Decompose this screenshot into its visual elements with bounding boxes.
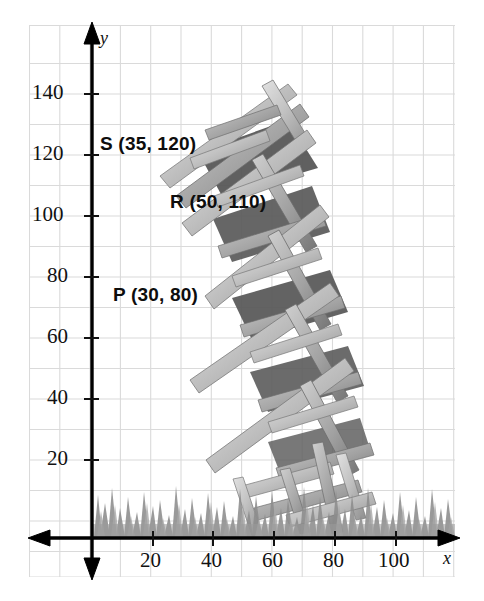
y-tick-label-40: 40 bbox=[47, 385, 68, 410]
point-label-S: S (35, 120) bbox=[100, 133, 196, 155]
x-tick-label-80: 80 bbox=[323, 548, 344, 573]
x-tick-label-40: 40 bbox=[201, 548, 222, 573]
y-tick-label-120: 120 bbox=[32, 141, 64, 166]
y-tick-label-60: 60 bbox=[47, 324, 68, 349]
grass-strip bbox=[92, 486, 455, 537]
y-tick-label-140: 140 bbox=[32, 80, 64, 105]
x-tick-label-100: 100 bbox=[378, 548, 410, 573]
point-label-P: P (30, 80) bbox=[113, 284, 198, 306]
y-tick-label-80: 80 bbox=[47, 263, 68, 288]
y-tick-label-100: 100 bbox=[32, 202, 64, 227]
x-tick-label-60: 60 bbox=[262, 548, 283, 573]
coordinate-plot bbox=[0, 0, 484, 601]
y-axis-label: y bbox=[100, 28, 108, 49]
point-label-R: R (50, 110) bbox=[170, 191, 266, 213]
x-axis-label: x bbox=[443, 548, 451, 569]
y-tick-label-20: 20 bbox=[47, 446, 68, 471]
x-tick-label-20: 20 bbox=[140, 548, 161, 573]
x-axis-arrow-left bbox=[28, 530, 50, 546]
figure-canvas: 140 120 100 80 60 40 20 20 40 60 80 100 … bbox=[0, 0, 484, 601]
